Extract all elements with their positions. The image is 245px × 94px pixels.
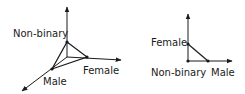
point-non-binary bbox=[186, 59, 189, 62]
label-female: Female bbox=[83, 65, 119, 76]
point-non-binary bbox=[65, 40, 68, 43]
point-female bbox=[85, 55, 88, 58]
simplex-segment bbox=[188, 44, 208, 61]
point-male bbox=[50, 67, 53, 70]
point-male bbox=[206, 59, 209, 62]
left-3d-diagram: Non-binary Female Male bbox=[13, 7, 121, 91]
label-female: Female bbox=[151, 37, 187, 48]
label-non-binary: Non-binary bbox=[151, 67, 206, 78]
diagram-canvas: Non-binary Female Male Female Non-binary… bbox=[0, 0, 245, 94]
label-male: Male bbox=[43, 76, 67, 87]
label-male: Male bbox=[211, 67, 235, 78]
label-non-binary: Non-binary bbox=[13, 28, 68, 39]
horizontal-axis bbox=[67, 57, 121, 60]
right-2d-diagram: Female Non-binary Male bbox=[151, 14, 235, 78]
